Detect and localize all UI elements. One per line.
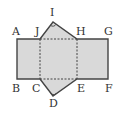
face-right-rectangle	[77, 39, 108, 79]
label-j: J	[34, 25, 39, 38]
prism-net-diagram: I A J H G B C E F D	[0, 0, 120, 114]
face-top-triangle	[40, 22, 77, 39]
label-a: A	[11, 25, 21, 38]
label-i: I	[50, 6, 54, 19]
label-d: D	[49, 97, 58, 110]
label-e: E	[77, 82, 85, 95]
label-b: B	[12, 82, 20, 95]
face-middle-rectangle	[40, 39, 77, 79]
label-h: H	[76, 25, 86, 38]
face-left-rectangle	[17, 39, 40, 79]
face-bottom-triangle	[40, 79, 77, 96]
label-c: C	[32, 82, 40, 95]
label-g: G	[104, 25, 113, 38]
label-f: F	[105, 82, 113, 95]
